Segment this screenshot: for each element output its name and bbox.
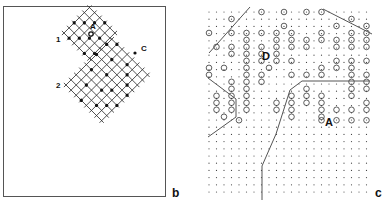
site-label-c-panel-b: C (141, 44, 147, 53)
site-label-d: D (262, 50, 270, 62)
panel-b-frame (4, 7, 166, 197)
site-label-a-panel-c: A (325, 116, 333, 128)
panel-b-lattices (60, 3, 152, 125)
site-label-a-panel-b: A (90, 22, 96, 31)
figure-canvas (0, 0, 385, 209)
panel-label-c: c (375, 186, 382, 200)
panel-c-lattice (206, 9, 369, 192)
panel-label-b: b (172, 186, 179, 200)
lattice-label-1: 1 (56, 35, 60, 44)
lattice-label-2: 2 (56, 81, 60, 90)
